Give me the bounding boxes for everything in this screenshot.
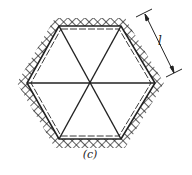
- figure-caption: (c): [78, 148, 102, 161]
- side-length-label: l: [158, 34, 162, 48]
- hexagon-figure: l (c): [0, 0, 192, 175]
